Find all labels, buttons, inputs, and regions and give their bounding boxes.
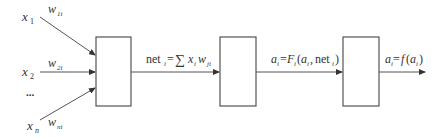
svg-text:x: x xyxy=(21,64,28,79)
svg-text:): ) xyxy=(419,52,423,66)
svg-text:=: = xyxy=(167,52,174,66)
svg-text:w: w xyxy=(198,52,206,66)
svg-text:=: = xyxy=(393,52,400,66)
weight-label-wni: w ni xyxy=(48,115,63,131)
svg-text:i: i xyxy=(194,60,196,68)
weight-label-w2i: w 2i xyxy=(48,56,63,72)
svg-text:1i: 1i xyxy=(57,10,63,18)
edge-label-activation-update: a i = F i ( a i , net i ) xyxy=(271,52,339,68)
svg-text:i: i xyxy=(416,60,418,68)
svg-text:ji: ji xyxy=(206,60,211,68)
input-arrow-1 xyxy=(40,17,95,55)
neuron-diagram: x 1 w 1i x 2 w 2i ... x n w ni net i = ∑… xyxy=(0,0,442,138)
weight-label-w1i: w 1i xyxy=(48,2,63,18)
svg-text:net: net xyxy=(315,52,330,66)
svg-text:1: 1 xyxy=(30,17,34,26)
svg-text:n: n xyxy=(35,126,39,135)
edge-label-net: net i = ∑ x i w ji xyxy=(146,52,211,68)
svg-text:i: i xyxy=(332,60,334,68)
block-1 xyxy=(96,37,131,106)
svg-text:x: x xyxy=(21,9,28,24)
block-2 xyxy=(220,37,256,106)
svg-text:w: w xyxy=(48,115,56,129)
svg-text:2i: 2i xyxy=(57,64,63,72)
svg-text:∑: ∑ xyxy=(175,52,185,67)
svg-text:x: x xyxy=(26,118,33,133)
edge-label-output: a i = f ( a i ) xyxy=(385,52,423,68)
ellipsis: ... xyxy=(26,86,35,98)
svg-text:i: i xyxy=(164,60,166,68)
svg-text:i: i xyxy=(277,60,279,68)
svg-text:w: w xyxy=(48,2,56,16)
svg-text:2: 2 xyxy=(30,72,34,81)
svg-text:,: , xyxy=(310,52,313,66)
svg-text:): ) xyxy=(335,52,339,66)
svg-text:i: i xyxy=(294,60,296,68)
input-label-xn: x n xyxy=(26,118,39,135)
svg-text:w: w xyxy=(48,56,56,70)
svg-text:ni: ni xyxy=(57,123,63,131)
svg-text:i: i xyxy=(307,60,309,68)
svg-text:net: net xyxy=(146,52,161,66)
input-label-x2: x 2 xyxy=(21,64,34,81)
svg-text:x: x xyxy=(187,52,194,66)
svg-text:=: = xyxy=(280,52,287,66)
block-3 xyxy=(343,37,379,106)
input-label-x1: x 1 xyxy=(21,9,34,26)
